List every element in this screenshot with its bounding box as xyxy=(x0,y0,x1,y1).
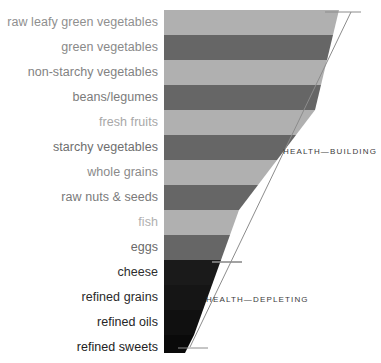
row-label-beans-legumes: beans/legumes xyxy=(0,85,158,110)
row-label-eggs: eggs xyxy=(0,235,158,260)
row-label-cheese: cheese xyxy=(0,260,158,285)
category-label-column: raw leafy green vegetables green vegetab… xyxy=(0,10,158,360)
annotation-health-building: HEALTH—BUILDING xyxy=(283,147,377,156)
bar-fish xyxy=(164,210,239,235)
row-label-refined-sweets: refined sweets xyxy=(0,335,158,360)
bar-fresh-fruits xyxy=(164,110,315,135)
annotation-health-depleting: HEALTH—DEPLETING xyxy=(206,295,309,304)
row-label-raw-nuts-and-seeds: raw nuts & seeds xyxy=(0,185,158,210)
row-label-whole-grains: whole grains xyxy=(0,160,158,185)
row-label-refined-grains: refined grains xyxy=(0,285,158,310)
bar-cheese xyxy=(164,260,221,285)
bar-beans-legumes xyxy=(164,85,321,110)
row-label-starchy-vegetables: starchy vegetables xyxy=(0,135,158,160)
row-label-green-vegetables: green vegetables xyxy=(0,35,158,60)
row-label-non-starchy-vegetables: non-starchy vegetables xyxy=(0,60,158,85)
bar-raw-leafy-green-vegetables xyxy=(164,10,339,35)
bar-green-vegetables xyxy=(164,35,333,60)
row-label-raw-leafy-green-vegetables: raw leafy green vegetables xyxy=(0,10,158,35)
bar-whole-grains xyxy=(164,160,277,185)
row-label-fish: fish xyxy=(0,210,158,235)
bar-starchy-vegetables xyxy=(164,135,296,160)
bar-non-starchy-vegetables xyxy=(164,60,327,85)
row-label-fresh-fruits: fresh fruits xyxy=(0,110,158,135)
bar-eggs xyxy=(164,235,230,260)
row-label-refined-oils: refined oils xyxy=(0,310,158,335)
